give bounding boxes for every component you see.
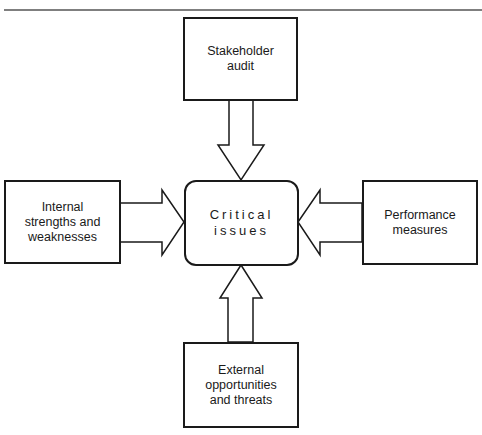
- critical-issues-box: Critical issues: [184, 180, 299, 266]
- internal-strengths-label: Internal strengths and weaknesses: [25, 200, 101, 245]
- stakeholder-audit-box: Stakeholder audit: [183, 17, 298, 101]
- arrow-right-to-center: [298, 190, 362, 255]
- internal-strengths-box: Internal strengths and weaknesses: [4, 180, 121, 264]
- arrow-left-to-center: [120, 190, 184, 255]
- external-opportunities-box: External opportunities and threats: [183, 342, 299, 428]
- arrow-bottom-to-center: [220, 265, 262, 342]
- performance-measures-box: Performance measures: [362, 180, 478, 265]
- external-opportunities-label: External opportunities and threats: [205, 363, 277, 408]
- performance-measures-label: Performance measures: [384, 208, 456, 238]
- stakeholder-audit-label: Stakeholder audit: [207, 44, 274, 74]
- critical-issues-label: Critical issues: [210, 207, 274, 239]
- arrow-top-to-center: [218, 100, 264, 180]
